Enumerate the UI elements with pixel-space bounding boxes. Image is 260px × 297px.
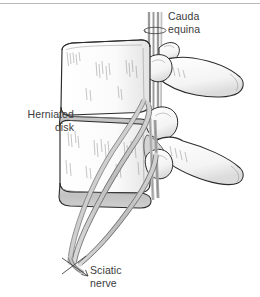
label-herniated-disk: Herniated disk [2,108,74,133]
label-sciatic-nerve: Sciatic nerve [90,264,122,289]
label-cauda-equina: Cauda equina [168,10,200,35]
upper-vertebral-body [61,40,150,115]
figure-root: Cauda equina Herniated disk Sciatic nerv… [0,0,260,297]
cauda-cut-mark-icon [144,27,166,33]
anatomy-illustration [0,0,260,297]
